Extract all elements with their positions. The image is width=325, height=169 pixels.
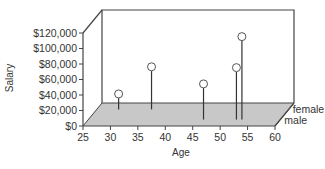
y-tick-label: $40,000 [39,89,77,101]
chart-floor [83,103,294,126]
stem-marker [115,90,123,98]
z-category-label: male [284,114,307,126]
y-axis-title: Salary [4,64,15,92]
stem-female [148,63,156,110]
x-tick-label: 25 [77,131,89,143]
stem-chart-3d: $0$20,000$40,000$60,000$80,000$100,000$1… [0,0,325,169]
stem-marker [148,63,156,71]
x-axis-title: Age [172,147,190,158]
x-tick-label: 55 [242,131,254,143]
x-tick-label: 40 [159,131,171,143]
x-tick-label: 30 [105,131,117,143]
stem-marker [200,80,208,88]
x-axis: 2530354045505560 [77,126,281,143]
floor-plane [83,103,294,126]
x-tick-label: 60 [269,131,281,143]
y-tick-label: $0 [65,120,77,132]
y-axis: $0$20,000$40,000$60,000$80,000$100,000$1… [33,27,83,132]
x-tick-label: 35 [132,131,144,143]
y-tick-label: $120,000 [33,27,77,39]
x-tick-label: 50 [214,131,226,143]
y-tick-label: $60,000 [39,73,77,85]
stem-marker [238,33,246,41]
x-tick-label: 45 [187,131,199,143]
y-tick-label: $20,000 [39,104,77,116]
stem-marker [232,64,240,72]
y-tick-label: $100,000 [33,42,77,54]
side-edge [83,10,102,33]
back-wall-frame [102,10,294,103]
y-tick-label: $80,000 [39,58,77,70]
